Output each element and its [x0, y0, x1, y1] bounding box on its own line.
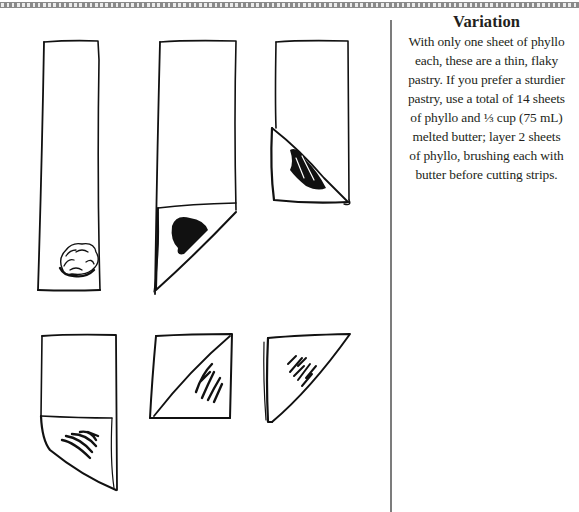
filling-streaks-icon	[196, 364, 222, 402]
step-2-first-fold	[154, 41, 236, 294]
step-4-second-fold	[41, 335, 117, 490]
folding-illustrations	[0, 0, 390, 512]
sidebar-body: With only one sheet of phyllo each, thes…	[394, 32, 579, 184]
filling-blob-icon	[172, 217, 208, 254]
step-3-triangle-fold	[271, 41, 349, 205]
body-line: butter before cutting strips.	[415, 167, 557, 182]
step-6-finished-triangle	[264, 334, 350, 422]
filling-mound-icon	[60, 244, 98, 277]
step-5-square-packet	[150, 334, 232, 418]
body-line: With only one sheet of phyllo	[408, 34, 564, 49]
body-line: melted butter; layer 2 sheets	[412, 129, 560, 144]
body-line: pastry. If you prefer a sturdier	[408, 72, 565, 87]
filling-streaks-icon	[290, 149, 326, 189]
body-line: pastry, use a total of 14 sheets	[408, 91, 565, 106]
body-line: each, these are a thin, flaky	[415, 53, 558, 68]
variation-sidebar: Variation With only one sheet of phyllo …	[394, 12, 579, 184]
body-line: of phyllo, brushing each with	[409, 148, 563, 163]
body-line: of phyllo and ⅓ cup (75 mL)	[410, 110, 562, 125]
sidebar-heading: Variation	[394, 12, 579, 32]
step-1-strip-with-filling	[38, 41, 100, 291]
column-divider	[390, 20, 392, 512]
